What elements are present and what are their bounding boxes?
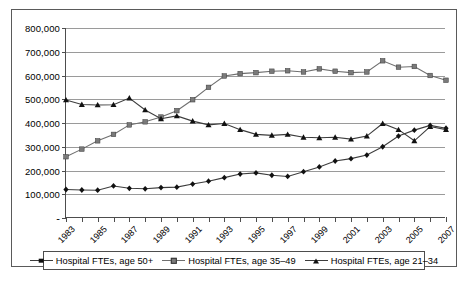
y-axis-label: 700,000 [25,46,60,57]
data-point [63,187,68,193]
legend-key-diamond-icon [30,256,53,265]
data-point [428,73,433,78]
triangle-marker-icon [313,258,319,263]
data-point [349,70,354,75]
data-point [412,127,417,133]
y-axis-label: 200,000 [25,165,60,176]
data-point [127,123,132,128]
legend-entry[interactable]: Hospital FTEs, age 35–49 [162,256,296,266]
data-point [95,139,100,144]
data-point [127,185,132,191]
data-point [95,187,100,193]
legend-key-triangle-icon [305,256,328,265]
data-point [238,71,243,76]
data-point [348,156,353,162]
data-point [317,164,322,170]
data-point [174,184,179,190]
data-point [364,152,369,158]
diamond-marker-icon [39,258,44,263]
data-point [301,169,306,175]
data-point [285,68,290,73]
legend-label: Hospital FTEs, age 35–49 [188,256,296,266]
data-point [111,183,116,189]
data-point [270,69,275,74]
plot-area: 800,000700,000600,000500,000400,000300,0… [65,28,445,218]
legend-label: Hospital FTEs, age 50+ [56,256,153,266]
data-point [206,85,211,90]
data-point [126,95,132,100]
data-point [317,67,322,72]
data-point [269,172,274,178]
data-point [412,64,417,69]
data-point [190,97,195,102]
y-axis-label: 500,000 [25,94,60,105]
y-axis-label: 400,000 [25,118,60,129]
data-point [333,69,338,74]
y-axis-label: 300,000 [25,141,60,152]
data-point [143,186,148,192]
data-point [380,120,386,125]
data-point [253,170,258,176]
legend-key-square-icon [162,256,185,265]
data-point [396,133,401,139]
data-point [285,174,290,180]
data-point [380,144,385,150]
data-point [64,154,69,159]
data-point [380,58,385,63]
series-square [64,58,449,159]
data-point [174,113,180,118]
data-point [111,132,116,137]
data-point [79,187,84,193]
data-point [444,78,449,83]
y-axis-label: - [56,212,60,224]
x-axis-tick [446,217,447,222]
legend-entry[interactable]: Hospital FTEs, age 50+ [30,256,153,266]
data-point [365,70,370,75]
data-point [301,70,306,75]
legend-label: Hospital FTEs, age 21–34 [331,256,439,266]
data-point [222,74,227,79]
data-point [396,65,401,70]
data-point [206,178,211,184]
legend-entry[interactable]: Hospital FTEs, age 21–34 [305,256,439,266]
square-marker-icon [171,257,177,263]
y-axis-label: 600,000 [25,70,60,81]
data-point [175,108,180,113]
data-point [333,158,338,164]
data-point [238,171,243,177]
series-plot [66,28,446,218]
legend: Hospital FTEs, age 50+Hospital FTEs, age… [43,251,425,270]
data-point [222,175,227,181]
y-axis-label: 800,000 [25,23,60,34]
data-point [80,147,85,152]
data-point [158,185,163,191]
data-point [254,70,259,75]
series-triangle [63,95,449,143]
data-point [143,120,148,125]
figure: 800,000700,000600,000500,000400,000300,0… [0,0,469,283]
data-point [190,181,195,187]
y-axis-label: 100,000 [25,189,60,200]
